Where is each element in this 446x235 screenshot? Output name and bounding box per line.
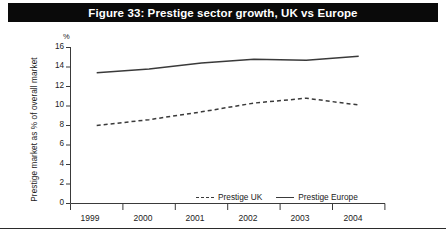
x-axis-ticks bbox=[71, 204, 385, 211]
figure-title: Figure 33: Prestige sector growth, UK vs… bbox=[88, 7, 357, 19]
series-line-prestige-uk bbox=[97, 98, 359, 125]
legend-swatch-dashed-icon bbox=[196, 197, 214, 198]
x-tick-label-2004: 2004 bbox=[331, 214, 375, 223]
chart-legend: Prestige UK Prestige Europe bbox=[196, 192, 358, 202]
series-line-prestige-europe bbox=[97, 56, 359, 73]
chart-canvas bbox=[0, 22, 446, 214]
figure-title-bar: Figure 33: Prestige sector growth, UK vs… bbox=[8, 3, 438, 22]
x-tick-label-2003: 2003 bbox=[278, 214, 322, 223]
chart-plot-area: % Prestige market as % of overall market… bbox=[0, 22, 446, 214]
y-axis-ticks bbox=[66, 48, 71, 204]
x-tick-label-2001: 2001 bbox=[173, 214, 217, 223]
legend-label-prestige-europe: Prestige Europe bbox=[298, 192, 358, 202]
legend-entry-prestige-europe: Prestige Europe bbox=[276, 192, 358, 202]
legend-label-prestige-uk: Prestige UK bbox=[218, 192, 262, 202]
x-tick-label-2000: 2000 bbox=[121, 214, 165, 223]
x-tick-label-2002: 2002 bbox=[226, 214, 270, 223]
axis-lines bbox=[71, 47, 386, 204]
legend-entry-prestige-uk: Prestige UK bbox=[196, 192, 262, 202]
figure-bottom-rule bbox=[0, 228, 446, 229]
figure-container: Figure 33: Prestige sector growth, UK vs… bbox=[0, 0, 446, 235]
legend-swatch-solid-icon bbox=[276, 197, 294, 198]
x-tick-label-1999: 1999 bbox=[68, 214, 112, 223]
